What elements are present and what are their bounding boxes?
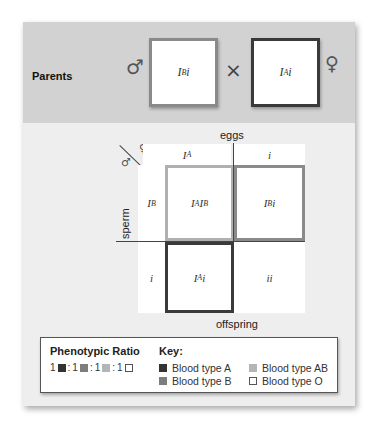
- key-item-type-ab: Blood type AB: [249, 362, 328, 374]
- allele-sup: B: [151, 199, 156, 208]
- father-allele-rest: i: [186, 65, 189, 80]
- key-item-type-o: Blood type O: [249, 375, 323, 387]
- male-symbol-icon: ♂: [126, 55, 144, 79]
- ratio-number: 1: [50, 362, 56, 373]
- row-divider: [116, 241, 305, 242]
- type-a-swatch-icon: [159, 364, 167, 372]
- allele-base: i: [150, 272, 153, 284]
- phenotypic-ratio: 1 : 1 : 1 : 1: [50, 362, 133, 373]
- type-b-swatch-icon: [80, 364, 88, 372]
- phenotypic-ratio-title: Phenotypic Ratio: [50, 345, 140, 357]
- allele-base: i: [268, 149, 271, 161]
- type-ab-swatch-icon: [102, 364, 110, 372]
- offspring-cell-b: IBi: [234, 165, 305, 241]
- egg-allele-header-2: i: [234, 144, 305, 165]
- allele: ii: [266, 272, 272, 284]
- key-label: Blood type A: [172, 362, 231, 374]
- type-o-swatch-icon: [125, 364, 133, 372]
- parents-label: Parents: [32, 70, 72, 82]
- female-symbol-icon: ♀: [325, 52, 339, 74]
- cross-symbol-icon: ×: [225, 58, 242, 82]
- ratio-number: 1: [72, 362, 78, 373]
- parents-band: Parents ♂ IBi × IAi ♀: [23, 22, 355, 123]
- allele-sup: B: [203, 199, 208, 208]
- eggs-label: eggs: [220, 129, 244, 141]
- type-a-swatch-icon: [58, 364, 66, 372]
- ratio-separator: :: [90, 362, 93, 373]
- key-title: Key:: [159, 345, 183, 357]
- ratio-number: 1: [95, 362, 101, 373]
- mother-genotype-box: IAi: [251, 38, 320, 107]
- offspring-label: offspring: [216, 318, 258, 330]
- punnett-square-figure: Parents ♂ IBi × IAi ♀ eggs ♂ ♀ IA i IB i…: [23, 22, 355, 406]
- type-o-swatch-icon: [249, 377, 257, 385]
- legend-box: Phenotypic Ratio 1 : 1 : 1 : 1 Key: Bloo…: [40, 337, 338, 393]
- offspring-cell-ab: IAIB: [165, 165, 234, 241]
- key-item-type-a: Blood type A: [159, 362, 231, 374]
- type-b-swatch-icon: [159, 377, 167, 385]
- sperm-allele-header-2: i: [138, 242, 165, 313]
- key-label: Blood type B: [172, 375, 232, 387]
- father-genotype-box: IBi: [149, 38, 218, 107]
- allele-sup: A: [186, 150, 191, 159]
- key-label: Blood type O: [262, 375, 323, 387]
- offspring-cell-a: IAi: [165, 242, 234, 313]
- mother-allele-rest: i: [288, 65, 291, 80]
- sperm-allele-header-1: IB: [138, 165, 165, 241]
- egg-allele-header-1: IA: [143, 144, 231, 165]
- type-ab-swatch-icon: [249, 364, 257, 372]
- offspring-cell-o: ii: [234, 242, 305, 313]
- sperm-label: sperm: [119, 208, 131, 239]
- allele: i: [272, 197, 275, 209]
- ratio-separator: :: [68, 362, 71, 373]
- key-item-type-b: Blood type B: [159, 375, 232, 387]
- key-label: Blood type AB: [262, 362, 328, 374]
- ratio-number: 1: [117, 362, 123, 373]
- column-divider: [233, 143, 234, 241]
- ratio-separator: :: [112, 362, 115, 373]
- allele: i: [202, 272, 205, 284]
- corner-male-icon: ♂: [121, 156, 131, 169]
